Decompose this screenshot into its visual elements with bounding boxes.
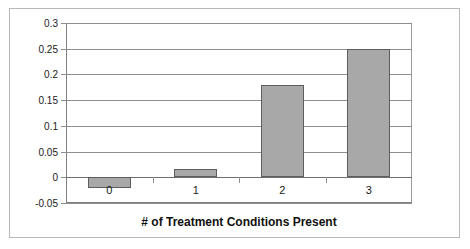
x-axis-tick-label: 3 bbox=[366, 184, 372, 196]
x-tick-mark bbox=[326, 177, 327, 183]
x-axis-tick-label: 1 bbox=[193, 184, 199, 196]
y-axis-tick-label: 0.1 bbox=[44, 120, 58, 131]
x-axis-tick-label: 0 bbox=[106, 184, 112, 196]
y-axis-tick-label: 0.05 bbox=[39, 146, 58, 157]
y-tick-mark bbox=[61, 49, 66, 50]
y-tick-mark bbox=[61, 177, 66, 178]
bar bbox=[347, 49, 390, 178]
y-axis-tick-label: 0.25 bbox=[39, 43, 58, 54]
y-tick-mark bbox=[61, 203, 66, 204]
gridline bbox=[66, 23, 412, 24]
x-tick-mark bbox=[239, 177, 240, 183]
plot-area bbox=[66, 23, 412, 203]
x-axis-title: # of Treatment Conditions Present bbox=[66, 215, 412, 229]
bar bbox=[261, 85, 304, 178]
y-tick-mark bbox=[61, 23, 66, 24]
y-tick-mark bbox=[61, 100, 66, 101]
y-axis-tick-label: 0.3 bbox=[44, 18, 58, 29]
y-axis-tick-label: 0.2 bbox=[44, 69, 58, 80]
x-axis-tick-label: 2 bbox=[279, 184, 285, 196]
y-tick-mark bbox=[61, 126, 66, 127]
y-tick-mark bbox=[61, 152, 66, 153]
x-tick-mark bbox=[153, 177, 154, 183]
y-tick-mark bbox=[61, 74, 66, 75]
y-axis-tick-label: 0.15 bbox=[39, 95, 58, 106]
y-axis-tick-label: 0 bbox=[52, 172, 58, 183]
y-axis-tick-label: -0.05 bbox=[35, 198, 58, 209]
chart-figure: 0.30.250.20.150.10.050-0.05 0123 # of Tr… bbox=[0, 0, 470, 249]
gridline bbox=[66, 203, 412, 204]
bar bbox=[174, 169, 217, 178]
